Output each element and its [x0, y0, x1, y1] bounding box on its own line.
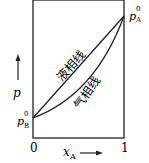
- pA-sub: A: [135, 16, 142, 24]
- pA-label: p: [129, 10, 136, 23]
- x-tick-start: 0: [30, 141, 38, 155]
- pB-sup: 0: [24, 110, 28, 118]
- y-axis-label: p: [13, 86, 21, 100]
- x-arrowhead-icon: [96, 151, 103, 156]
- y-arrowhead-icon: [16, 54, 21, 61]
- pA-sup: 0: [136, 5, 140, 13]
- x-axis-label: x: [63, 145, 70, 159]
- x-axis-label-sub: A: [69, 152, 76, 161]
- pB-label: p: [17, 115, 24, 128]
- pB-sub: B: [24, 122, 29, 130]
- phase-diagram: 液相线 气相线 p 0 1 x A p 0 A p 0 B: [0, 0, 149, 163]
- x-tick-end: 1: [121, 141, 129, 155]
- liquid-line-label: 液相线: [53, 47, 88, 84]
- plot-frame: [33, 0, 124, 138]
